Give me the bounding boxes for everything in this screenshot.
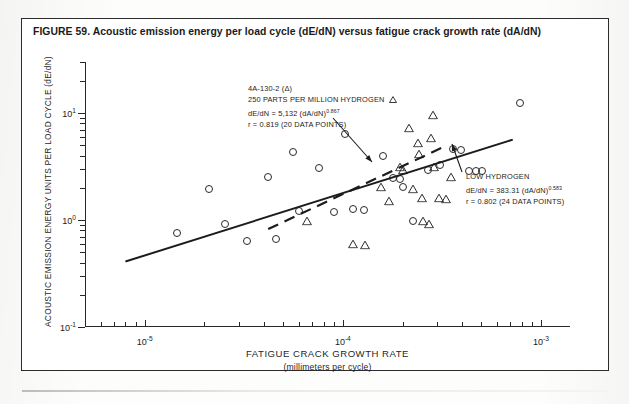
page-rule-divider [22,390,608,392]
annotation-high-condition: 250 PARTS PER MILLION HYDROGEN [248,95,397,107]
x-tick-minor [462,322,463,327]
data-point-circle [205,185,213,193]
data-point-circle [295,207,303,215]
x-tick-major [145,320,146,327]
triangle-legend-icon [389,96,397,107]
x-axis-units-label: (millimeters per cycle) [85,362,570,372]
data-point-circle [272,235,280,243]
y-tick-label-0: 101 [62,107,76,119]
y-axis-line [85,62,86,327]
data-point-circle [341,130,349,138]
x-tick-minor [437,322,438,327]
y-tick-minor [80,145,85,146]
data-point-circle [330,208,338,216]
x-axis-title: FATIGUE CRACK GROWTH RATE [85,348,570,359]
x-tick-label-1: 10-4 [335,335,351,347]
x-tick-minor [299,322,300,327]
y-tick-major [78,220,85,221]
data-point-circle [349,205,357,213]
x-tick-minor [204,322,205,327]
x-tick-label-0: 10-5 [137,335,153,347]
y-tick-minor [80,188,85,189]
data-point-circle [264,173,272,181]
x-tick-minor [283,322,284,327]
data-point-circle [457,146,465,154]
x-tick-minor [264,322,265,327]
y-tick-minor [80,225,85,226]
figure-caption: FIGURE 59. Acoustic emission energy per … [33,26,593,37]
x-tick-minor [532,322,533,327]
y-tick-label-1: 100 [62,214,76,226]
x-tick-major [541,320,542,327]
y-tick-minor [80,169,85,170]
x-tick-minor [334,322,335,327]
y-tick-minor [80,137,85,138]
y-tick-minor [80,130,85,131]
y-tick-major [78,327,85,328]
data-point-circle [409,217,417,225]
annotation-low-equation: dE/dN = 383.31 (dA/dN)0.583 [466,183,564,197]
x-tick-minor [101,322,102,327]
data-point-circle [289,148,297,156]
y-tick-minor [80,156,85,157]
data-point-circle [315,164,323,172]
data-point-circle [449,145,457,153]
annotation-high-correlation: r = 0.819 (20 DATA POINTS) [248,120,397,131]
y-tick-minor [80,62,85,63]
annotation-high-specimen: 4A-130-2 (Δ) [248,84,397,95]
y-tick-minor [80,123,85,124]
x-tick-minor [125,322,126,327]
y-tick-label-2: 10-1 [60,321,76,333]
data-point-circle [360,206,368,214]
y-tick-minor [80,252,85,253]
x-tick-label-2: 10-3 [533,335,549,347]
y-tick-minor [80,263,85,264]
x-tick-minor [522,322,523,327]
x-tick-minor [481,322,482,327]
annotation-high-exponent: 0.867 [326,108,340,114]
annotation-low-condition: LOW HYDROGEN [466,172,564,183]
annotation-low-exponent: 0.583 [548,185,562,191]
x-tick-minor [136,322,137,327]
y-tick-minor [80,276,85,277]
x-tick-minor [497,322,498,327]
x-tick-minor [312,322,313,327]
y-axis-title: ACOUSTIC EMISSION ENERGY UNITS PER LOAD … [43,62,57,327]
y-tick-minor [80,230,85,231]
annotation-high-equation: dE/dN = 5,132 (dA/dN)0.867 [248,106,397,120]
x-tick-minor [324,322,325,327]
annotation-low-hydrogen: LOW HYDROGEN dE/dN = 383.31 (dA/dN)0.583… [466,172,564,207]
x-tick-minor [510,322,511,327]
data-point-circle [243,237,251,245]
annotation-high-hydrogen: 4A-130-2 (Δ) 250 PARTS PER MILLION HYDRO… [248,84,397,131]
data-point-circle [221,220,229,228]
data-point-circle [379,152,387,160]
x-tick-minor [403,322,404,327]
x-tick-minor [239,322,240,327]
y-tick-minor [80,244,85,245]
y-tick-major [78,113,85,114]
y-tick-minor [80,295,85,296]
data-point-circle [516,99,524,107]
y-tick-minor [80,237,85,238]
annotation-low-correlation: r = 0.802 (24 DATA POINTS) [466,197,564,208]
x-tick-minor [114,322,115,327]
y-tick-minor [80,81,85,82]
data-point-circle [173,229,181,237]
x-tick-major [343,320,344,327]
data-point-circle [399,183,407,191]
y-tick-minor [80,118,85,119]
